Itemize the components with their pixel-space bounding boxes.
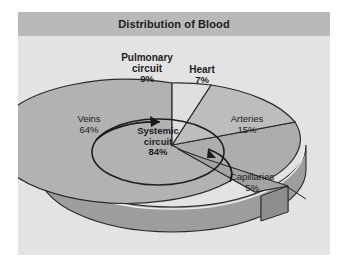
chart-title-banner: Distribution of Blood	[18, 12, 330, 36]
page-title: Distribution of Blood	[118, 18, 229, 30]
figure-panel: Distribution of Blood	[18, 12, 330, 255]
pie-chart-plot-area: Pulmonary circuit 9% Heart 7% Arteries 1…	[18, 36, 330, 255]
pie-chart-graphic	[18, 36, 330, 255]
